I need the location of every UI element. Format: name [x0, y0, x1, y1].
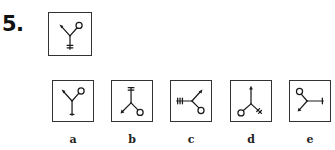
question-number: 5. — [2, 12, 24, 36]
option-c-figure[interactable] — [170, 80, 212, 122]
option-a-label[interactable]: a — [52, 133, 94, 146]
option-c-label[interactable]: c — [170, 133, 212, 146]
option-b-label[interactable]: b — [111, 133, 153, 146]
option-e-label[interactable]: e — [289, 133, 331, 146]
y-glyph-icon — [231, 81, 271, 121]
y-glyph-icon — [112, 81, 152, 121]
y-glyph-icon — [171, 81, 211, 121]
option-d-label[interactable]: d — [230, 133, 272, 146]
option-e-figure[interactable] — [289, 80, 331, 122]
option-d-figure[interactable] — [230, 80, 272, 122]
option-b-figure[interactable] — [111, 80, 153, 122]
prompt-figure — [48, 12, 92, 56]
option-a-figure[interactable] — [52, 80, 94, 122]
y-glyph-icon — [53, 81, 93, 121]
y-glyph-icon — [290, 81, 330, 121]
y-glyph-icon — [49, 13, 91, 55]
